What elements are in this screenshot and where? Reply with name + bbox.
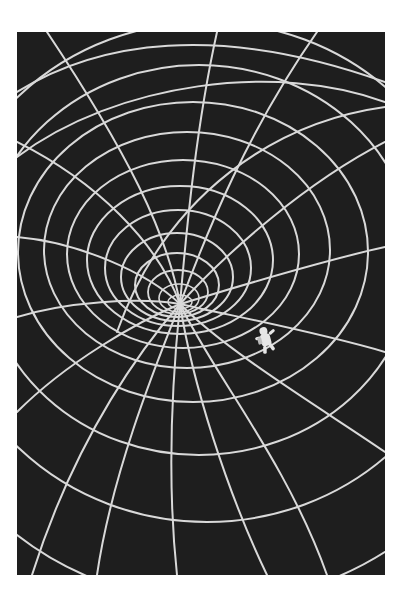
artwork-canvas <box>17 32 385 575</box>
gravity-well-illustration <box>17 32 385 575</box>
